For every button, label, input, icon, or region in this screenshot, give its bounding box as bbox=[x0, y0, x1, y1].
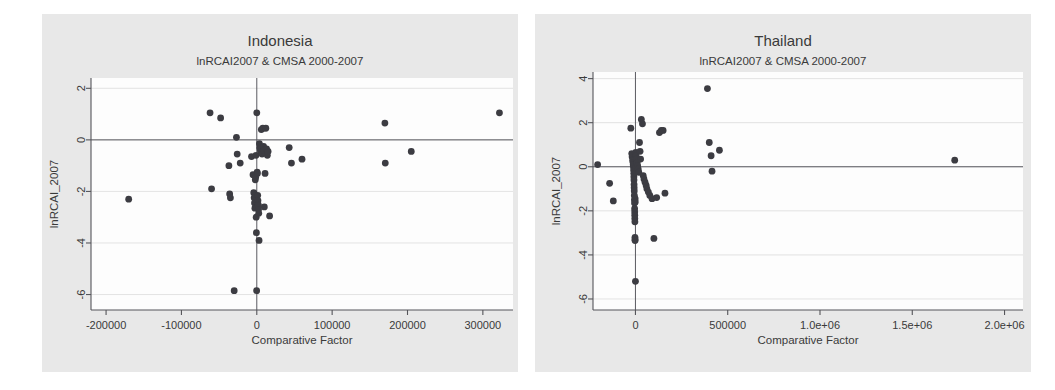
x-tick-label-2: 0 bbox=[254, 319, 260, 331]
data-point bbox=[288, 160, 295, 167]
data-point bbox=[631, 218, 638, 225]
x-tick-label-4: 200000 bbox=[389, 319, 426, 331]
chart-subtitle-thailand: lnRCAI2007 & CMSA 2000-2007 bbox=[700, 55, 867, 67]
data-point bbox=[639, 120, 646, 127]
figure-container: Indonesia lnRCAI2007 & CMSA 2000-2007 20… bbox=[0, 0, 1055, 390]
y-axis-title: lnRCAI_2007 bbox=[550, 157, 562, 225]
chart-title-thailand: Thailand bbox=[754, 32, 812, 49]
y-tick-label-3: -4 bbox=[75, 238, 87, 248]
data-point bbox=[381, 120, 388, 127]
data-point bbox=[606, 180, 613, 187]
data-point bbox=[226, 162, 233, 169]
data-point bbox=[253, 229, 260, 236]
plot-background bbox=[593, 72, 1023, 310]
data-point bbox=[234, 151, 241, 158]
y-tick-label-2: 0 bbox=[577, 164, 589, 170]
scatter-plot-thailand: Thailand lnRCAI2007 & CMSA 2000-2007 420… bbox=[535, 14, 1031, 372]
x-tick-label-4: 2.0e+06 bbox=[985, 319, 1025, 331]
data-point bbox=[262, 125, 269, 132]
data-point bbox=[653, 194, 660, 201]
data-point bbox=[227, 194, 234, 201]
data-point bbox=[610, 198, 617, 205]
x-tick-label-3: 100000 bbox=[314, 319, 351, 331]
data-point bbox=[286, 144, 293, 151]
x-tick-label-0: -200000 bbox=[86, 319, 126, 331]
data-point bbox=[627, 125, 634, 132]
data-point bbox=[207, 109, 214, 116]
y-tick-label-2: -2 bbox=[75, 187, 87, 197]
data-point bbox=[636, 139, 643, 146]
x-axis-title: Comparative Factor bbox=[252, 334, 353, 346]
y-tick-label-3: -2 bbox=[577, 206, 589, 216]
data-point bbox=[254, 170, 261, 177]
data-point bbox=[594, 161, 601, 168]
y-tick-label-0: 4 bbox=[577, 76, 589, 82]
data-point bbox=[637, 148, 644, 155]
chart-title-indonesia: Indonesia bbox=[247, 32, 313, 49]
y-axis-title: lnRCAI_2007 bbox=[48, 160, 60, 228]
data-point bbox=[125, 196, 132, 203]
data-point bbox=[632, 237, 639, 244]
data-point bbox=[217, 115, 224, 122]
data-point bbox=[708, 152, 715, 159]
x-axis-title: Comparative Factor bbox=[758, 334, 859, 346]
data-point bbox=[651, 235, 658, 242]
plot-area-thailand: 420-2-4-605000001.0e+061.5e+062.0e+06lnR… bbox=[550, 72, 1025, 346]
data-point bbox=[262, 170, 269, 177]
plot-area-indonesia: 20-2-4-6-200000-100000010000020000030000… bbox=[48, 78, 513, 346]
data-point bbox=[253, 287, 260, 294]
x-tick-label-2: 1.0e+06 bbox=[800, 319, 840, 331]
data-point bbox=[261, 203, 268, 210]
data-point bbox=[496, 109, 503, 116]
y-tick-label-4: -6 bbox=[75, 290, 87, 300]
data-point bbox=[704, 85, 711, 92]
x-tick-label-1: -100000 bbox=[161, 319, 201, 331]
data-point bbox=[637, 156, 644, 163]
data-point bbox=[660, 127, 667, 134]
data-point bbox=[408, 148, 415, 155]
data-point bbox=[632, 278, 639, 285]
data-point bbox=[256, 237, 263, 244]
data-point bbox=[382, 160, 389, 167]
data-point bbox=[706, 139, 713, 146]
x-tick-label-0: 0 bbox=[632, 319, 638, 331]
data-point bbox=[951, 157, 958, 164]
data-point bbox=[231, 287, 238, 294]
data-point bbox=[299, 156, 306, 163]
data-point bbox=[709, 168, 716, 175]
data-point bbox=[233, 134, 240, 141]
data-point bbox=[237, 160, 244, 167]
data-point bbox=[208, 185, 215, 192]
data-point bbox=[253, 109, 260, 116]
data-point bbox=[255, 210, 262, 217]
y-tick-label-1: 0 bbox=[75, 137, 87, 143]
y-tick-label-0: 2 bbox=[75, 85, 87, 91]
y-tick-label-4: -4 bbox=[577, 250, 589, 260]
y-tick-label-5: -6 bbox=[577, 294, 589, 304]
y-tick-label-1: 2 bbox=[577, 120, 589, 126]
data-point bbox=[662, 190, 669, 197]
data-point bbox=[716, 147, 723, 154]
data-point bbox=[266, 213, 273, 220]
data-point bbox=[632, 199, 639, 206]
data-point bbox=[265, 148, 272, 155]
plot-background bbox=[91, 78, 513, 310]
scatter-plot-indonesia: Indonesia lnRCAI2007 & CMSA 2000-2007 20… bbox=[42, 14, 518, 372]
x-tick-label-3: 1.5e+06 bbox=[892, 319, 932, 331]
x-tick-label-5: 300000 bbox=[464, 319, 501, 331]
chart-subtitle-indonesia: lnRCAI2007 & CMSA 2000-2007 bbox=[197, 55, 364, 67]
x-tick-label-1: 500000 bbox=[709, 319, 746, 331]
